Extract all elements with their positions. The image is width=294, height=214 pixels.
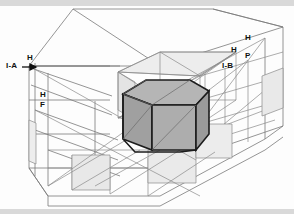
outer-left-front xyxy=(29,168,48,196)
outer-bottom-right-2 xyxy=(265,137,283,150)
strut-left-3 xyxy=(35,110,118,140)
outer-top-upper xyxy=(213,9,283,27)
label-i-b: I-B xyxy=(222,62,233,70)
diagram-canvas: I-A H H F H P H I-B xyxy=(0,0,294,214)
label-i-a: I-A xyxy=(6,62,17,70)
panel-right-edge xyxy=(262,68,283,116)
label-h-1: H xyxy=(27,54,33,62)
panel-left-edge xyxy=(29,120,36,164)
label-p-1: P xyxy=(245,52,251,60)
outer-bottom-right xyxy=(265,126,283,139)
outer-top-face xyxy=(73,9,283,27)
label-h-3: H xyxy=(231,46,237,54)
panel-bottom-left xyxy=(72,155,110,190)
label-f-1: F xyxy=(40,101,45,109)
apex-to-center-1 xyxy=(73,9,160,66)
label-h-2: H xyxy=(40,91,46,99)
label-h-4: H xyxy=(245,34,251,42)
inner-hex-prism xyxy=(123,80,209,152)
outer-top-left-edge xyxy=(29,9,73,66)
